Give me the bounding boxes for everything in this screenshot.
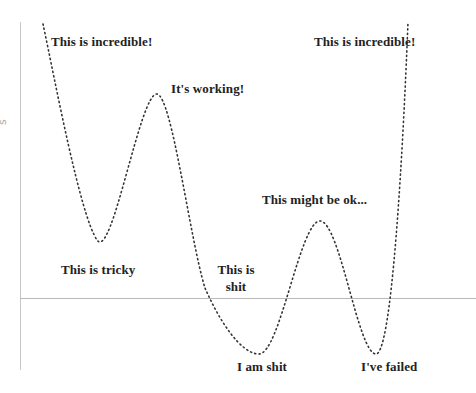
label-dip-shit: This is shit: [210, 262, 262, 294]
label-trough-failed: I've failed: [361, 359, 417, 374]
label-peak-might-be-ok: This might be ok...: [262, 192, 367, 207]
diagram-canvas: [0, 0, 476, 393]
label-trough-tricky: This is tricky: [61, 262, 135, 277]
label-peak-its-working: It's working!: [171, 81, 244, 96]
label-start-high: This is incredible!: [51, 34, 152, 49]
rollercoaster-diagram: s This is incredible! It's working! This…: [0, 0, 476, 393]
label-end-high: This is incredible!: [314, 34, 415, 49]
label-dip-shit-line1: This is: [210, 262, 262, 277]
y-axis-label: s: [0, 119, 9, 125]
emotion-curve: [43, 22, 408, 354]
label-dip-shit-line2: shit: [210, 279, 262, 294]
label-trough-i-am-shit: I am shit: [237, 359, 287, 374]
